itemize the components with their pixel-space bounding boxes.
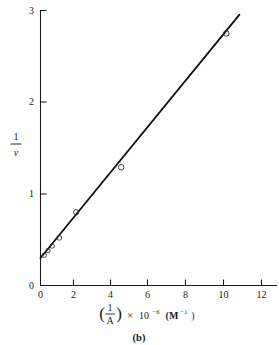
x-axis-title-left-paren: ( <box>99 304 105 323</box>
x-tick-label-12: 12 <box>257 289 267 300</box>
x-axis-title-units-exponent: −1 <box>181 308 188 315</box>
data-points <box>42 31 229 258</box>
x-tick-label-6: 6 <box>145 289 150 300</box>
x-axis-title-base: 10 <box>139 310 149 321</box>
x-tick-labels: 0 2 4 6 8 10 12 <box>38 289 267 300</box>
multiplication-sign-icon: × <box>127 310 133 321</box>
linear-fit-line <box>41 15 240 258</box>
x-tick-label-2: 2 <box>71 289 76 300</box>
y-axis-title-numerator: 1 <box>14 131 19 142</box>
y-tick-label-0: 0 <box>29 280 34 291</box>
y-tick-label-3: 3 <box>29 5 34 16</box>
figure-panel: 3 2 1 0 0 2 4 6 8 10 12 <box>0 0 279 345</box>
x-tick-label-0: 0 <box>38 289 43 300</box>
y-tick-label-2: 2 <box>29 96 34 107</box>
axis-lines <box>40 10 277 286</box>
y-tick-labels: 3 2 1 0 <box>29 5 34 291</box>
figure-caption: (b) <box>133 332 146 344</box>
x-tick-label-8: 8 <box>183 289 188 300</box>
x-tick-label-4: 4 <box>108 289 113 300</box>
y-tick-marks <box>41 11 47 195</box>
x-axis-title-denominator: A <box>106 315 114 326</box>
x-tick-marks <box>74 280 262 286</box>
x-axis-title-units-open: (M <box>166 310 179 322</box>
x-axis-title-numerator: 1 <box>108 302 113 313</box>
y-tick-label-1: 1 <box>29 188 34 199</box>
y-axis-title-denominator: v <box>14 147 19 158</box>
x-axis-title-units-close: ) <box>191 310 194 322</box>
x-axis-title: ( 1 A ) × 10 −6 (M −1 ) <box>99 302 195 326</box>
x-axis-title-exponent: −6 <box>153 308 161 315</box>
y-axis-title: 1 v <box>11 131 22 158</box>
x-tick-label-10: 10 <box>219 289 229 300</box>
lineweaver-burk-plot: 3 2 1 0 0 2 4 6 8 10 12 <box>0 0 279 345</box>
data-point <box>118 164 124 170</box>
x-axis-title-right-paren: ) <box>116 304 122 323</box>
